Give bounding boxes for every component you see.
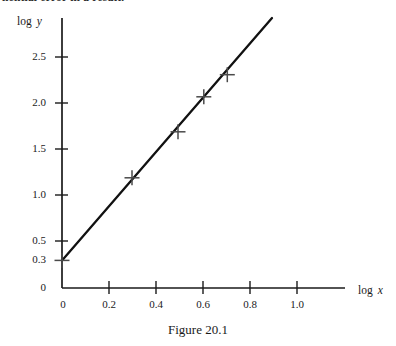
- y-tick-label-0.3: 0.3: [8, 253, 46, 265]
- x-tick-label-0.6: 0.6: [191, 298, 215, 310]
- x-tick-label-0.2: 0.2: [97, 298, 121, 310]
- best-fit-line: [62, 18, 272, 260]
- x-tick-label-0: 0: [55, 298, 71, 310]
- y-tick-label-0: 0: [8, 281, 46, 293]
- y-tick-label-2.0: 2.0: [8, 96, 46, 108]
- x-tick-label-0.8: 0.8: [238, 298, 262, 310]
- x-axis-label-prefix: log: [358, 284, 373, 296]
- figure-container: logy logx 2.5 2.0 1.5 1.0 0.5 0.3 0 0 0.…: [0, 0, 396, 346]
- y-tick-label-1.0: 1.0: [8, 188, 46, 200]
- figure-caption: Figure 20.1: [0, 322, 396, 338]
- y-tick-label-0.5: 0.5: [8, 234, 46, 246]
- y-tick-label-2.5: 2.5: [8, 50, 46, 62]
- data-point-2: [171, 124, 186, 139]
- plot-area: [0, 0, 396, 346]
- x-tick-label-1.0: 1.0: [285, 298, 309, 310]
- x-tick-label-0.4: 0.4: [144, 298, 168, 310]
- y-axis-label-variable: y: [32, 15, 42, 27]
- x-axis-label-variable: x: [373, 284, 383, 296]
- y-tick-label-1.5: 1.5: [8, 142, 46, 154]
- axis-lines: [62, 18, 345, 288]
- x-axis-label: logx: [358, 284, 383, 296]
- y-axis-label: logy: [17, 15, 42, 27]
- data-point-4: [220, 67, 235, 82]
- y-axis-label-prefix: log: [17, 15, 32, 27]
